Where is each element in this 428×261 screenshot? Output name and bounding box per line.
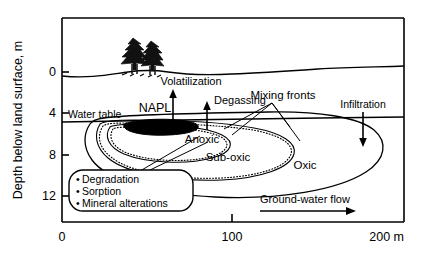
groundwater-flow-label: Ground-water flow [260,193,350,205]
y-tick-8-label: 8 [49,148,56,162]
processes-callout: • Degradation • Sorption • Mineral alter… [69,136,208,211]
callout-label-2: Sorption [82,185,121,197]
x-tick-100-label: 100 [222,230,243,244]
callout-item-1: • Degradation [76,173,139,185]
callout-label-3: Mineral alterations [82,197,168,209]
infiltration-arrow-head [359,138,367,147]
tree-icon-right [141,41,164,75]
sub-oxic-zone-label: Sub-oxic [206,151,251,163]
x-tick-200-label: 200 m [369,230,404,244]
water-table-label: Water table [68,108,121,120]
callout-bullet-1: • [76,173,80,185]
y-axis-ticks: 0 4 8 12 [42,65,69,203]
groundwater-flow-annotation: Ground-water flow [260,193,356,215]
napl-label: NAPL [139,101,172,115]
tree-icon-left [121,38,147,74]
callout-bullet-2: • [76,185,80,197]
mixing-fronts-leader-2 [224,103,272,129]
land-surface-line [62,66,404,77]
y-tick-4-label: 4 [49,106,56,120]
volatilization-annotation: Volatilization [160,75,221,123]
infiltration-label: Infiltration [340,98,386,110]
volatilization-label: Volatilization [160,75,221,87]
anoxic-zone-label: Anoxic [185,133,220,145]
degassing-arrow-head [203,101,211,110]
groundwater-flow-arrow-head [346,207,356,215]
napl-source: NAPL [124,101,199,135]
land-surface [62,66,404,77]
infiltration-annotation: Infiltration [340,98,386,147]
x-axis-ticks: 0 100 200 m [59,214,404,244]
volatilization-arrow-head [169,89,177,98]
callout-leader-1 [140,136,200,171]
napl-lens [124,119,199,135]
y-axis-title-text: Depth below land surface, m [11,41,25,199]
x-tick-0-label: 0 [59,230,66,244]
callout-label-1: Degradation [82,173,139,185]
figure-root: Depth below land surface, m 0 4 8 12 [0,0,428,261]
callout-item-2: • Sorption [76,185,121,197]
y-axis-title: Depth below land surface, m [11,41,25,199]
callout-bullet-3: • [76,197,80,209]
tree-right-canopy [141,41,164,71]
mixing-fronts-label: Mixing fronts [250,89,315,101]
y-tick-0-label: 0 [49,65,56,79]
callout-item-3: • Mineral alterations [76,197,168,209]
y-tick-12-label: 12 [42,189,56,203]
cross-section-diagram: Depth below land surface, m 0 4 8 12 [0,0,428,261]
mixing-fronts-leader-4 [272,103,300,141]
oxic-zone-label: Oxic [294,159,317,171]
callout-leader-2 [148,142,208,171]
